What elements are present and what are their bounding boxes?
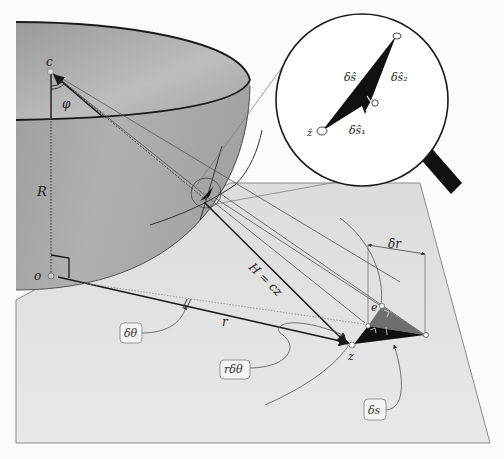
diagram-canvas: // c φ R o r H = cz z e δr δθ rδθ δs bbox=[0, 0, 504, 459]
label-phi: φ bbox=[62, 97, 71, 111]
magnified-label-delta-s1-hat: δŝ₁ bbox=[349, 124, 366, 137]
r-delta-theta-label: rδθ bbox=[224, 363, 243, 376]
label-c: c bbox=[46, 55, 53, 69]
magnified-point-mid bbox=[372, 100, 378, 106]
parallel-tick-mark: // bbox=[182, 297, 192, 310]
point-z bbox=[349, 342, 355, 348]
label-e: e bbox=[371, 301, 378, 314]
magnified-point-top bbox=[393, 33, 401, 39]
label-delta-r: δr bbox=[388, 237, 402, 251]
magnifier: δŝ δŝ₂ δŝ₁ ẑ bbox=[276, 14, 462, 194]
label-o: o bbox=[34, 269, 41, 283]
point-o bbox=[48, 273, 54, 279]
delta-s-label: δs bbox=[368, 404, 381, 417]
label-R: R bbox=[36, 184, 47, 199]
magnified-point-z bbox=[317, 127, 327, 135]
label-z: z bbox=[347, 350, 354, 363]
point-c bbox=[48, 69, 53, 74]
magnified-label-delta-s2-hat: δŝ₂ bbox=[391, 71, 408, 84]
magnified-label-delta-s-hat: δŝ bbox=[344, 71, 357, 84]
delta-theta-label: δθ bbox=[124, 327, 138, 340]
magnified-label-z-hat: ẑ bbox=[306, 127, 313, 138]
point-far bbox=[424, 333, 429, 338]
point-mid bbox=[366, 324, 371, 329]
point-e bbox=[380, 304, 385, 309]
